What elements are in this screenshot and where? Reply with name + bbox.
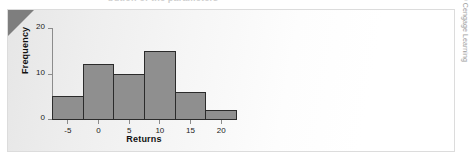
x-tick: -5 <box>67 120 68 124</box>
x-tick-mark <box>98 120 99 124</box>
y-tick-label: 0 <box>41 113 45 122</box>
x-tick: 5 <box>129 120 130 124</box>
x-axis-title: Returns <box>52 134 236 144</box>
y-tick-mark <box>48 28 52 29</box>
y-tick: 0 <box>48 119 52 120</box>
figure-root: bution of the parameters 01020 -50510152… <box>0 0 471 161</box>
x-tick-mark <box>190 120 191 124</box>
x-tick-mark <box>159 120 160 124</box>
y-axis-title: Frequency <box>20 27 30 74</box>
histogram-bar <box>205 110 237 120</box>
histogram-bar <box>175 92 207 120</box>
y-tick-mark <box>48 74 52 75</box>
histogram-bar <box>83 64 115 120</box>
y-tick-label: 10 <box>36 68 45 77</box>
y-tick: 20 <box>48 28 52 29</box>
x-tick-mark <box>67 120 68 124</box>
clipped-caption-text: bution of the parameters <box>108 0 218 3</box>
y-tick: 10 <box>48 74 52 75</box>
copyright-credit: © Cengage Learning <box>462 0 469 62</box>
x-tick: 15 <box>190 120 191 124</box>
x-tick: 0 <box>98 120 99 124</box>
y-tick-mark <box>48 119 52 120</box>
clipped-caption-strip: bution of the parameters <box>0 0 471 7</box>
figure-panel: 01020 -505101520 Returns Frequency <box>7 9 455 152</box>
x-tick-mark <box>129 120 130 124</box>
x-tick-mark <box>221 120 222 124</box>
histogram-bar <box>113 74 145 121</box>
x-tick: 20 <box>221 120 222 124</box>
histogram-plot-area: 01020 -505101520 <box>8 10 455 152</box>
histogram-bar <box>144 51 176 120</box>
x-tick: 10 <box>159 120 160 124</box>
histogram-bar <box>52 96 84 120</box>
y-tick-label: 20 <box>36 22 45 31</box>
